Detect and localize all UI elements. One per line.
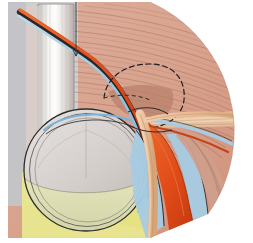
anatomy-illustration-canvas <box>0 0 253 243</box>
anatomy-figure <box>0 0 253 243</box>
